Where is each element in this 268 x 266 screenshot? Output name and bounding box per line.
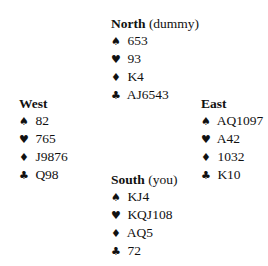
east-spades: ♠ AQ1097 [201,112,263,130]
club-icon: ♣ [111,87,124,104]
east-spades-cards: AQ1097 [217,113,264,128]
west-hand: West ♠ 82 ♥ 765 ♦ J9876 ♣ Q98 [19,95,68,184]
north-clubs-cards: AJ6543 [127,87,169,102]
spade-icon: ♠ [111,33,124,50]
club-icon: ♣ [19,167,32,184]
west-clubs: ♣ Q98 [19,166,68,184]
west-name: West [19,96,48,111]
north-diamonds: ♦ K4 [111,68,199,86]
north-hand: North (dummy) ♠ 653 ♥ 93 ♦ K4 ♣ AJ6543 [111,15,199,104]
diamond-icon: ♦ [19,149,32,166]
east-hearts-cards: A42 [217,131,240,146]
south-spades: ♠ KJ4 [111,188,177,206]
north-role: (dummy) [149,16,199,31]
diamond-icon: ♦ [201,149,214,166]
east-label: East [201,95,263,112]
south-hearts: ♥ KQJ108 [111,206,177,224]
spade-icon: ♠ [201,113,214,130]
west-diamonds: ♦ J9876 [19,148,68,166]
club-icon: ♣ [201,167,214,184]
north-hearts: ♥ 93 [111,50,199,68]
north-spades: ♠ 653 [111,32,199,50]
south-hand: South (you) ♠ KJ4 ♥ KQJ108 ♦ AQ5 ♣ 72 [111,171,177,260]
south-hearts-cards: KQJ108 [127,207,172,222]
west-clubs-cards: Q98 [35,167,58,182]
east-name: East [201,96,227,111]
east-hearts: ♥ A42 [201,130,263,148]
south-clubs: ♣ 72 [111,242,177,260]
club-icon: ♣ [111,243,124,260]
west-hearts-cards: 765 [35,131,55,146]
south-diamonds: ♦ AQ5 [111,224,177,242]
north-clubs: ♣ AJ6543 [111,86,199,104]
spade-icon: ♠ [111,189,124,206]
east-diamonds-cards: 1032 [217,149,244,164]
heart-icon: ♥ [111,51,124,68]
diamond-icon: ♦ [111,69,124,86]
south-diamonds-cards: AQ5 [127,225,153,240]
heart-icon: ♥ [201,131,214,148]
north-diamonds-cards: K4 [127,69,144,84]
west-hearts: ♥ 765 [19,130,68,148]
spade-icon: ♠ [19,113,32,130]
east-clubs-cards: K10 [217,167,240,182]
north-hearts-cards: 93 [127,51,141,66]
north-spades-cards: 653 [127,33,147,48]
south-role: (you) [148,172,177,187]
east-hand: East ♠ AQ1097 ♥ A42 ♦ 1032 ♣ K10 [201,95,263,184]
west-spades-cards: 82 [35,113,49,128]
south-label: South (you) [111,171,177,188]
south-name: South [111,172,145,187]
north-label: North (dummy) [111,15,199,32]
west-diamonds-cards: J9876 [35,149,67,164]
heart-icon: ♥ [111,207,124,224]
diamond-icon: ♦ [111,225,124,242]
east-diamonds: ♦ 1032 [201,148,263,166]
south-spades-cards: KJ4 [127,189,149,204]
north-name: North [111,16,146,31]
west-label: West [19,95,68,112]
heart-icon: ♥ [19,131,32,148]
south-clubs-cards: 72 [127,243,141,258]
west-spades: ♠ 82 [19,112,68,130]
east-clubs: ♣ K10 [201,166,263,184]
